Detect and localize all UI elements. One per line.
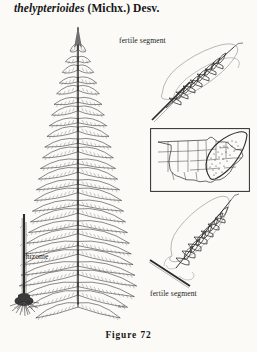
label-fertile-segment-lower: fertile segment bbox=[150, 289, 197, 298]
species-epithet: thelypterioides bbox=[14, 2, 85, 14]
artist-signature: K.H. bbox=[118, 305, 126, 309]
species-authority: (Michx.) Desv. bbox=[87, 2, 159, 14]
map-state-lines bbox=[158, 141, 242, 180]
map-country-outline bbox=[158, 137, 243, 182]
label-fertile-segment-upper: fertile segment bbox=[119, 36, 166, 45]
root-mass bbox=[10, 293, 39, 316]
pinna-outline bbox=[164, 196, 229, 280]
figure-page: thelypterioides (Michx.) Desv. bbox=[0, 0, 257, 352]
fertile-segment-upper-illustration bbox=[150, 32, 257, 124]
fertile-segment-lower-illustration bbox=[148, 190, 257, 290]
page-title: thelypterioides (Michx.) Desv. bbox=[14, 2, 159, 14]
map-range-shading bbox=[206, 132, 247, 180]
figure-caption: Figure 72 bbox=[0, 330, 257, 340]
distribution-map-inset bbox=[150, 128, 250, 192]
rhizome-illustration bbox=[6, 212, 46, 318]
label-rhizome: rhizome bbox=[23, 252, 49, 261]
